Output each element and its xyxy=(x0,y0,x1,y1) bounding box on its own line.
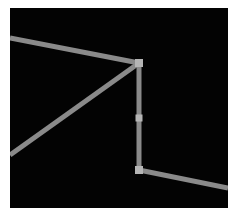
bottom-joint xyxy=(135,166,143,174)
top-joint xyxy=(135,59,143,67)
diagram-canvas xyxy=(10,8,228,208)
top-left-beam xyxy=(10,38,139,63)
mid-joint xyxy=(136,115,143,122)
diagonal-brace xyxy=(10,63,139,155)
bottom-right-beam xyxy=(139,170,228,188)
truss-diagram xyxy=(10,8,228,208)
